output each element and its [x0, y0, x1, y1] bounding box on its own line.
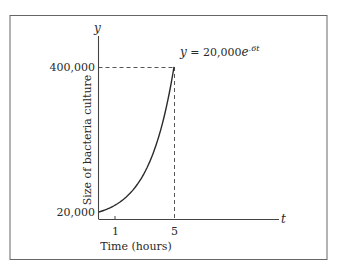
x-tick-label-1: 1	[112, 225, 119, 238]
y-tick-label-20000: 20,000	[57, 206, 96, 219]
x-tick-label-5: 5	[171, 225, 178, 238]
exponential-curve	[99, 67, 174, 212]
x-axis-var: t	[281, 212, 286, 226]
equation-label: y = 20,000e.6t	[179, 44, 260, 59]
chart-frame	[10, 16, 327, 260]
y-tick-label-400000: 400,000	[50, 61, 96, 74]
y-axis-var: y	[93, 21, 101, 35]
y-axis-title: Size of bacteria culture	[81, 75, 94, 206]
chart: y t 1 5 20,000 400,000 y = 20,000e.6t Ti…	[0, 0, 337, 270]
x-axis-title: Time (hours)	[100, 240, 172, 253]
